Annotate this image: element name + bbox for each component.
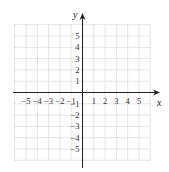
x-axis-label: x xyxy=(156,97,162,108)
x-tick-label: 4 xyxy=(126,96,131,106)
y-tick-label: −5 xyxy=(70,144,79,154)
x-tick-label: 2 xyxy=(103,96,107,106)
y-tick-label: −1 xyxy=(70,99,79,109)
y-axis-label: y xyxy=(72,9,78,20)
y-tick-label: −3 xyxy=(70,121,79,131)
coordinate-plane: x y −5−4−3−2−112345 54321−1−2−3−4−5 xyxy=(0,0,169,172)
x-tick-label: −5 xyxy=(21,96,30,106)
y-tick-label: −2 xyxy=(70,110,79,120)
y-tick-label: 2 xyxy=(75,65,79,75)
x-tick-label: −4 xyxy=(33,96,43,106)
y-tick-label: 5 xyxy=(75,31,79,41)
x-tick-label: 5 xyxy=(137,96,141,106)
x-tick-label: −3 xyxy=(44,96,53,106)
y-tick-label: 3 xyxy=(75,54,79,64)
y-tick-label: 1 xyxy=(75,76,79,86)
x-tick-label: −2 xyxy=(55,96,64,106)
y-tick-label: −4 xyxy=(70,133,80,143)
x-tick-label: 1 xyxy=(92,96,96,106)
x-tick-label: 3 xyxy=(114,96,118,106)
